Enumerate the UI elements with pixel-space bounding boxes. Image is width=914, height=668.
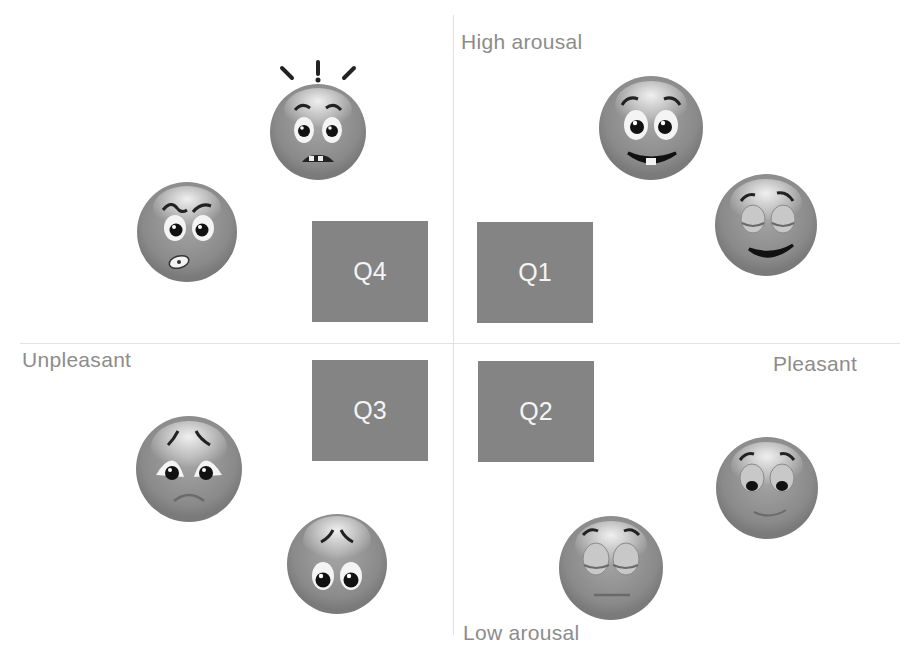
quadrant-q2-label: Q2 — [519, 397, 552, 426]
sad-face-icon — [134, 415, 244, 523]
quadrant-q1-label: Q1 — [518, 258, 551, 287]
label-pleasant: Pleasant — [773, 352, 857, 376]
vertical-axis-line — [453, 15, 454, 635]
shocked-face-icon — [262, 58, 374, 182]
quadrant-q4-label: Q4 — [353, 257, 386, 286]
relaxed-face-icon — [556, 515, 666, 621]
angry-face-icon — [135, 180, 239, 284]
label-low-arousal: Low arousal — [463, 621, 580, 645]
quadrant-q3: Q3 — [312, 360, 428, 461]
quadrant-q4: Q4 — [312, 221, 428, 322]
happy-face-icon — [713, 173, 819, 277]
label-unpleasant: Unpleasant — [22, 348, 131, 372]
worried-face-icon — [287, 512, 387, 616]
horizontal-axis-line — [20, 343, 900, 344]
quadrant-q1: Q1 — [477, 222, 593, 323]
quadrant-q3-label: Q3 — [353, 396, 386, 425]
quadrant-q2: Q2 — [478, 361, 594, 462]
excited-face-icon — [596, 75, 706, 181]
content-face-icon — [714, 436, 820, 540]
label-high-arousal: High arousal — [461, 30, 583, 54]
